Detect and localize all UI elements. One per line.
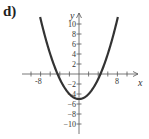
y-tick-label: −10 (63, 120, 76, 129)
x-tick-label-neg8: -8 (35, 77, 42, 86)
y-tick-label: 10 (68, 20, 76, 29)
x-axis: x -8 8 (22, 72, 143, 89)
y-tick-label: −8 (67, 110, 76, 119)
y-tick-label: 6 (72, 40, 76, 49)
y-tick-label: 4 (72, 50, 76, 59)
y-tick-label: −2 (67, 80, 76, 89)
x-axis-label: x (137, 77, 143, 88)
x-tick-label-8: 8 (115, 77, 119, 86)
y-tick-label: 2 (72, 60, 76, 69)
parabola-chart: x -8 8 y 108642−2−4−6−8−10 (0, 0, 149, 139)
y-tick-label: 8 (72, 30, 76, 39)
y-tick-label: −6 (67, 100, 76, 109)
y-axis: y 108642−2−4−6−8−10 (63, 10, 81, 134)
